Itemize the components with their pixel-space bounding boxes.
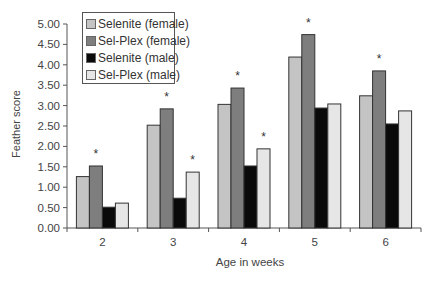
y-tick-label: 5.00	[38, 18, 60, 30]
y-axis: 0.000.501.001.502.002.503.003.504.004.50…	[38, 18, 67, 234]
bar	[76, 177, 89, 228]
legend-label: Selenite (male)	[98, 51, 179, 65]
bar	[328, 104, 341, 228]
significance-asterisk: *	[377, 52, 382, 66]
y-tick-label: 0.00	[38, 222, 60, 234]
bar	[173, 198, 186, 228]
significance-asterisk: *	[235, 69, 240, 83]
legend-swatch	[86, 53, 96, 63]
x-tick-label: 3	[170, 236, 176, 248]
bar	[289, 57, 302, 228]
x-axis-label: Age in weeks	[180, 256, 320, 268]
bar	[231, 88, 244, 228]
bar	[102, 207, 115, 228]
bar	[373, 71, 386, 228]
legend-item: Sel-Plex (female)	[86, 32, 172, 49]
legend-swatch	[86, 36, 96, 46]
bar	[160, 109, 173, 228]
bar-chart: 0.000.501.001.502.002.503.003.504.004.50…	[0, 0, 426, 281]
legend: Selenite (female) Sel-Plex (female) Sele…	[82, 12, 175, 84]
significance-asterisk: *	[164, 90, 169, 104]
significance-asterisk: *	[261, 130, 266, 144]
legend-label: Sel-Plex (female)	[98, 34, 190, 48]
bar	[257, 149, 270, 228]
significance-asterisk: *	[94, 147, 99, 161]
significance-asterisk: *	[190, 153, 195, 167]
y-tick-label: 1.00	[38, 181, 60, 193]
legend-item: Selenite (male)	[86, 49, 172, 66]
bar	[315, 108, 328, 228]
significance-asterisk: *	[306, 16, 311, 30]
x-tick-label: 6	[382, 236, 388, 248]
bar	[89, 166, 102, 228]
bar	[386, 124, 399, 228]
y-tick-label: 4.00	[38, 59, 60, 71]
bar	[147, 125, 160, 228]
legend-item: Sel-Plex (male)	[86, 66, 172, 83]
legend-item: Selenite (female)	[86, 15, 172, 32]
y-tick-label: 3.00	[38, 100, 60, 112]
y-tick-label: 3.50	[38, 79, 60, 91]
x-axis: 23456	[67, 228, 421, 248]
y-tick-label: 4.50	[38, 38, 60, 50]
legend-label: Sel-Plex (male)	[98, 68, 180, 82]
y-tick-label: 1.50	[38, 161, 60, 173]
x-tick-label: 2	[99, 236, 105, 248]
x-tick-label: 5	[312, 236, 318, 248]
y-tick-label: 0.50	[38, 202, 60, 214]
y-tick-label: 2.00	[38, 140, 60, 152]
legend-label: Selenite (female)	[98, 17, 189, 31]
y-axis-label: Feather score	[10, 84, 22, 164]
bar	[186, 172, 199, 228]
bar	[302, 35, 315, 228]
legend-swatch	[86, 19, 96, 29]
bar	[360, 96, 373, 228]
bar	[115, 203, 128, 228]
y-tick-label: 2.50	[38, 120, 60, 132]
bar	[399, 111, 412, 228]
bar	[218, 104, 231, 228]
legend-swatch	[86, 70, 96, 80]
bar	[244, 166, 257, 228]
x-tick-label: 4	[241, 236, 248, 248]
